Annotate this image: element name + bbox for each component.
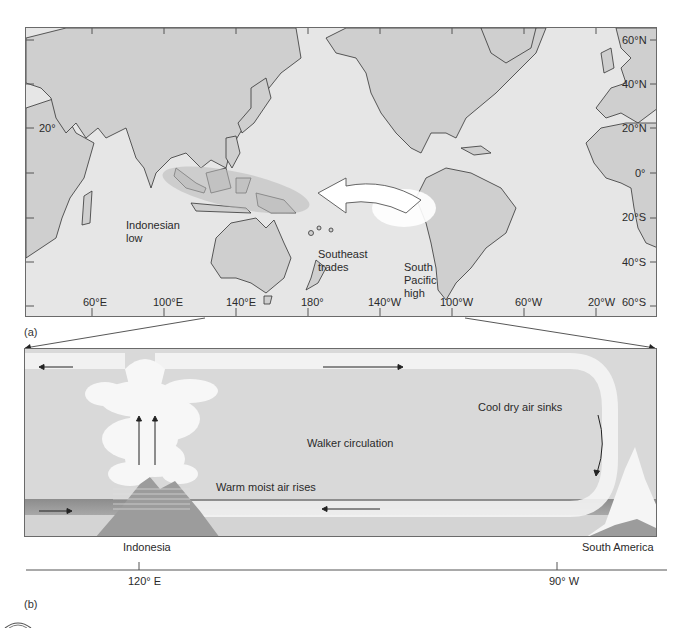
convection-clouds xyxy=(85,359,218,486)
warm-moist-air-rises-label: Warm moist air rises xyxy=(216,481,316,494)
axis-tick-90w: 90° W xyxy=(549,575,579,588)
longitude-axis-b xyxy=(0,560,693,590)
indonesia-label: Indonesia xyxy=(123,541,171,554)
sinking-air-arrow xyxy=(597,415,602,473)
panel-b-label: (b) xyxy=(24,598,37,610)
walker-circulation-label: Walker circulation xyxy=(307,437,393,450)
south-america-label: South America xyxy=(582,541,654,554)
walker-circulation-panel-b: Walker circulation Warm moist air rises … xyxy=(24,348,657,537)
corner-decoration-icon xyxy=(3,620,33,628)
cool-dry-air-sinks-label: Cool dry air sinks xyxy=(478,401,562,414)
zoom-connector-lines xyxy=(0,0,693,360)
axis-tick-120e: 120° E xyxy=(128,575,161,588)
